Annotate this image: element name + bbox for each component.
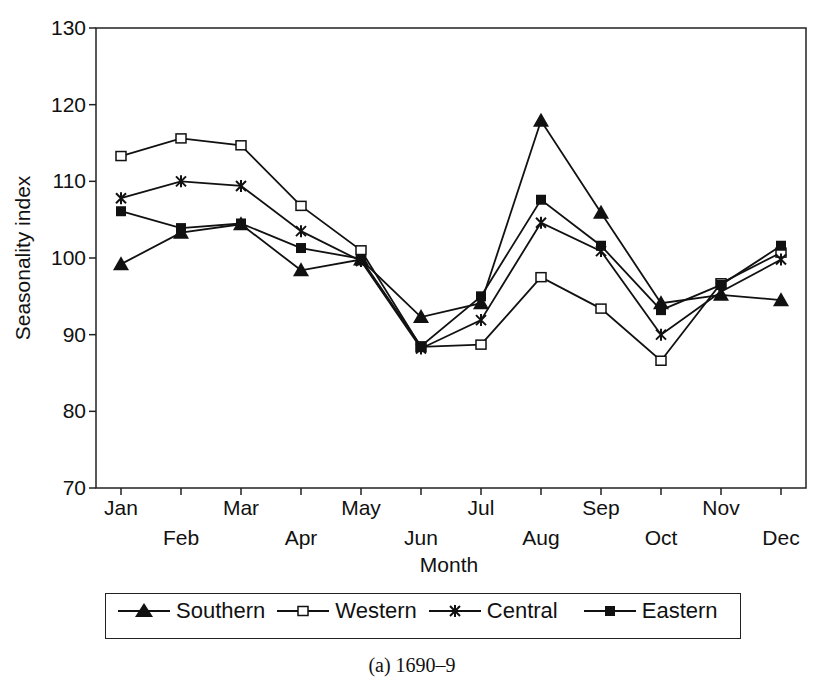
series-western xyxy=(116,134,786,365)
data-point xyxy=(356,246,366,255)
x-tick-label: Jun xyxy=(404,526,438,549)
x-tick-label: May xyxy=(341,496,381,519)
data-point xyxy=(533,113,549,127)
y-tick-label: 80 xyxy=(63,399,86,422)
legend-label: Central xyxy=(487,598,558,624)
x-tick-label: Jul xyxy=(468,496,495,519)
data-point xyxy=(236,141,246,150)
x-tick-label: Nov xyxy=(702,496,740,519)
y-tick-label: 70 xyxy=(63,476,86,499)
legend-label: Southern xyxy=(176,598,265,624)
data-point xyxy=(596,241,606,251)
series-southern xyxy=(113,113,789,323)
line-chart: 708090100110120130JanFebMarAprMayJunJulA… xyxy=(0,0,824,590)
x-tick-label: Apr xyxy=(285,526,318,549)
data-point xyxy=(416,341,426,351)
asterisk-marker-icon xyxy=(427,601,483,621)
data-point xyxy=(716,280,726,290)
data-point xyxy=(236,219,246,229)
data-point xyxy=(536,195,546,205)
y-axis-label: Seasonality index xyxy=(11,175,34,340)
data-point xyxy=(113,256,129,270)
data-point xyxy=(656,356,666,365)
x-axis-label: Month xyxy=(420,553,478,576)
chart-axes: 708090100110120130JanFebMarAprMayJunJulA… xyxy=(11,16,806,576)
data-point xyxy=(776,241,786,251)
data-point xyxy=(116,192,126,204)
filled-triangle-marker-icon xyxy=(116,601,172,621)
data-point xyxy=(596,304,606,313)
y-tick-label: 120 xyxy=(51,93,86,116)
figure-caption: (a) 1690–9 xyxy=(0,654,824,677)
x-tick-label: Feb xyxy=(163,526,199,549)
data-point xyxy=(656,305,666,315)
data-point xyxy=(776,254,786,266)
x-tick-label: Mar xyxy=(223,496,259,519)
data-point xyxy=(296,225,306,237)
data-point xyxy=(476,314,486,326)
data-point xyxy=(296,243,306,253)
data-point xyxy=(536,217,546,229)
y-tick-label: 130 xyxy=(51,16,86,39)
legend-item-eastern: Eastern xyxy=(582,598,718,624)
y-tick-label: 110 xyxy=(53,169,86,192)
data-point xyxy=(356,254,366,264)
x-tick-label: Oct xyxy=(645,526,678,549)
series-central xyxy=(116,175,786,354)
data-point xyxy=(536,273,546,282)
filled-square-marker-icon xyxy=(582,601,638,621)
data-point xyxy=(656,329,666,341)
data-point xyxy=(476,340,486,349)
data-point xyxy=(296,201,306,210)
legend-label: Eastern xyxy=(642,598,718,624)
y-tick-label: 90 xyxy=(63,323,86,346)
plot-frame xyxy=(96,28,806,488)
chart-series xyxy=(113,113,789,365)
data-point xyxy=(116,152,126,161)
data-point xyxy=(176,223,186,233)
x-tick-label: Dec xyxy=(762,526,799,549)
data-point xyxy=(176,134,186,143)
x-tick-label: Sep xyxy=(582,496,619,519)
data-point xyxy=(116,206,126,216)
chart-legend: Southern Western Central Eastern xyxy=(105,593,741,639)
data-point xyxy=(593,205,609,219)
legend-item-central: Central xyxy=(427,598,558,624)
legend-label: Western xyxy=(335,598,417,624)
data-point xyxy=(476,291,486,301)
legend-item-western: Western xyxy=(275,598,417,624)
open-square-marker-icon xyxy=(275,601,331,621)
x-tick-label: Aug xyxy=(522,526,559,549)
x-tick-label: Jan xyxy=(104,496,138,519)
y-tick-label: 100 xyxy=(51,246,86,269)
legend-item-southern: Southern xyxy=(116,598,265,624)
